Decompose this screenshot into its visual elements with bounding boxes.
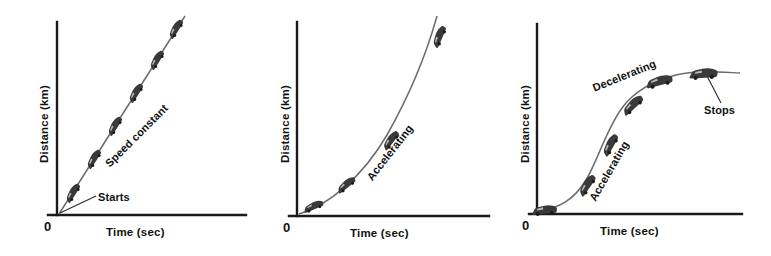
y-axis-label: Distance (km): [279, 85, 291, 163]
y-axis-label: Distance (km): [519, 85, 531, 163]
panel-2-graphic: [257, 0, 514, 256]
origin-label: 0: [44, 219, 51, 234]
car-icon: [530, 200, 558, 214]
distance-time-graphs-figure: Distance (km) Time (sec) 0 Speed constan…: [0, 0, 771, 256]
origin-label: 0: [522, 218, 529, 233]
panel-3-graphic: [514, 0, 771, 256]
car-icon: [687, 62, 719, 77]
panel-constant-speed: Distance (km) Time (sec) 0 Speed constan…: [0, 0, 257, 256]
stops-label: Stops: [704, 104, 735, 116]
x-axis-label: Time (sec): [106, 226, 165, 238]
y-axis-label: Distance (km): [38, 85, 50, 163]
origin-label: 0: [283, 220, 290, 235]
panel-accelerate-decelerate-stop: Distance (km) Time (sec) 0 Decelerating …: [514, 0, 771, 256]
starts-label: Starts: [98, 191, 130, 203]
stops-leader-line: [707, 76, 721, 103]
panel-accelerating: Distance (km) Time (sec) 0 Accelerating: [257, 0, 514, 256]
x-axis-label: Time (sec): [600, 225, 659, 237]
x-axis-label: Time (sec): [350, 227, 409, 239]
trend-curve: [299, 16, 437, 214]
